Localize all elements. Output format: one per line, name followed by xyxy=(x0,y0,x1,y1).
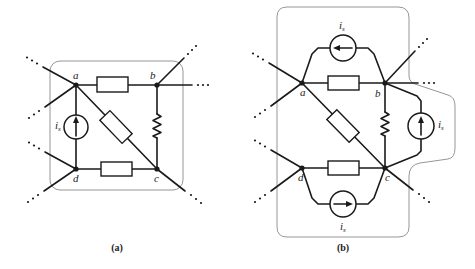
wire-right-source-c xyxy=(385,139,421,168)
figure-b: is is is a b c d (b) xyxy=(252,7,455,254)
source-label-is-bottom: is xyxy=(340,220,346,234)
node-c xyxy=(382,165,387,170)
figure-a: is a b c d (a) xyxy=(26,45,209,254)
lead-a-upper-left xyxy=(43,67,76,85)
node-a xyxy=(73,82,78,87)
lead-d-upper-left xyxy=(271,150,302,168)
ellipsis-dots xyxy=(418,38,428,48)
node-label-d: d xyxy=(73,172,79,184)
resistor-a-b xyxy=(328,76,359,90)
lead-a-lower-left xyxy=(271,83,302,106)
node-b xyxy=(154,82,159,87)
current-source-a-d xyxy=(64,115,88,139)
wire-bottom-source-c xyxy=(356,168,385,204)
wire-d-bottom-source xyxy=(302,168,330,204)
lead-b-upper-right xyxy=(385,51,415,83)
ellipsis-dots xyxy=(187,45,197,55)
resistor-a-b xyxy=(97,77,128,92)
source-label-is-top: is xyxy=(339,19,345,33)
wire-top-source-b xyxy=(356,48,385,83)
node-label-a: a xyxy=(73,69,79,81)
resistor-d-c xyxy=(328,161,359,175)
ellipsis-dots xyxy=(252,52,264,60)
node-label-b: b xyxy=(375,87,381,99)
node-label-b: b xyxy=(150,69,156,81)
lead-b-upper-right xyxy=(157,58,184,85)
ellipsis-dots xyxy=(254,109,266,118)
ellipsis-dots xyxy=(27,194,39,203)
node-b xyxy=(382,80,387,85)
node-d xyxy=(299,165,304,170)
node-label-c: c xyxy=(154,172,159,184)
ellipsis-dots xyxy=(197,84,209,86)
source-label-is: is xyxy=(55,119,61,133)
current-source-bottom xyxy=(330,191,356,217)
current-source-right xyxy=(408,113,434,139)
lead-d-lower-left xyxy=(44,169,76,191)
ellipsis-dots xyxy=(423,82,435,84)
ellipsis-dots xyxy=(418,193,430,203)
node-label-d: d xyxy=(298,171,304,183)
ellipsis-dots xyxy=(28,141,40,149)
node-label-c: c xyxy=(385,171,390,183)
ellipsis-dots xyxy=(28,110,40,119)
current-source-top xyxy=(330,35,356,61)
resistor-a-c-diagonal xyxy=(327,110,359,143)
figure-caption-a: (a) xyxy=(111,242,123,254)
lead-a-upper-left xyxy=(269,63,302,83)
wire-b-right-source xyxy=(385,83,421,113)
ellipsis-dots xyxy=(190,194,202,204)
node-c xyxy=(154,166,159,171)
ellipsis-dots xyxy=(254,139,266,147)
resistor-b-c-zigzag xyxy=(153,114,161,138)
circuit-diagram-canvas: is a b c d (a) xyxy=(0,0,475,269)
lead-c-lower-right xyxy=(157,169,185,191)
node-label-a: a xyxy=(300,86,306,98)
source-label-is-right: is xyxy=(438,118,444,132)
ellipsis-dots xyxy=(26,56,38,64)
node-a xyxy=(299,80,304,85)
node-d xyxy=(73,166,78,171)
resistor-b-c-zigzag xyxy=(381,112,389,136)
ellipsis-dots xyxy=(254,194,266,203)
wire-a-top-source xyxy=(302,48,330,83)
resistor-d-c xyxy=(101,162,132,176)
figure-caption-b: (b) xyxy=(337,242,349,254)
resistor-a-c-diagonal xyxy=(100,111,132,144)
